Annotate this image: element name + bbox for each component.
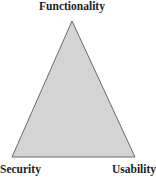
vertex-label-usability: Usability: [112, 163, 156, 175]
triangle-shape: [0, 0, 156, 180]
vertex-label-security: Security: [0, 163, 41, 175]
vertex-label-functionality: Functionality: [0, 0, 144, 12]
